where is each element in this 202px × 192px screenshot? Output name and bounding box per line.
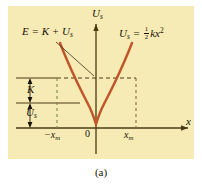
x-tick-positive-sub: m <box>128 134 133 141</box>
total-energy-label-K: K <box>42 25 49 37</box>
potential-equation-eq: = <box>130 27 143 39</box>
y-axis-label-text: U <box>92 7 100 19</box>
x-tick-negative-sub: m <box>55 134 60 141</box>
potential-equation-kx: kx <box>150 27 160 39</box>
potential-energy-equation-label: Us = 12kx2 <box>119 26 164 41</box>
potential-equation-U: U <box>119 27 127 39</box>
figure-caption: (a) <box>0 166 202 178</box>
energy-label-leader <box>56 42 94 76</box>
x-tick-negative-text: −x <box>44 129 55 140</box>
x-tick-label-negative-xm: −xm <box>44 130 60 141</box>
total-energy-label-plus: + <box>49 25 62 37</box>
y-axis-label-sub: s <box>100 12 103 21</box>
x-tick-label-positive-xm: xm <box>124 130 133 141</box>
total-energy-label-U-sub: s <box>70 30 73 39</box>
potential-energy-bracket-label: Us <box>26 107 37 119</box>
y-axis <box>93 24 98 154</box>
potential-bracket-U-sub: s <box>34 111 37 120</box>
x-axis <box>16 125 188 130</box>
potential-bracket-U: U <box>26 106 34 118</box>
fraction-denominator: 2 <box>144 34 149 41</box>
x-axis-label: x <box>186 116 191 127</box>
total-energy-label-U: U <box>62 25 70 37</box>
total-energy-label-E: E <box>22 25 29 37</box>
origin-label: 0 <box>85 129 90 139</box>
total-energy-label: E = K + Us <box>22 26 73 38</box>
kinetic-energy-bracket-label: K <box>27 84 34 95</box>
energy-diagram-figure: E = K + Us Us = 12kx2 Us x K Us −xm 0 xm… <box>0 0 202 192</box>
total-energy-label-eq: = <box>29 25 42 37</box>
potential-equation-exponent: 2 <box>160 26 164 35</box>
y-axis-label: Us <box>92 8 103 20</box>
one-half-fraction: 12 <box>144 26 149 41</box>
